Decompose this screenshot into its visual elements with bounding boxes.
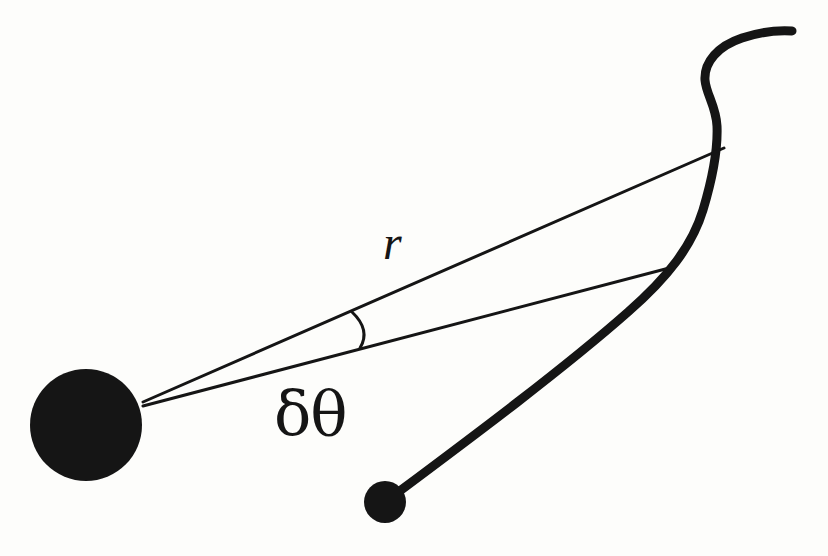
angle-arc	[352, 312, 364, 348]
figure-canvas: r δθ	[0, 0, 828, 556]
diagram-svg	[0, 0, 828, 556]
angle-label: δθ	[274, 383, 347, 445]
secondary-mass	[364, 481, 406, 523]
radius-label: r	[383, 219, 402, 267]
central-mass	[30, 369, 142, 481]
filament-curve-path	[385, 31, 792, 502]
